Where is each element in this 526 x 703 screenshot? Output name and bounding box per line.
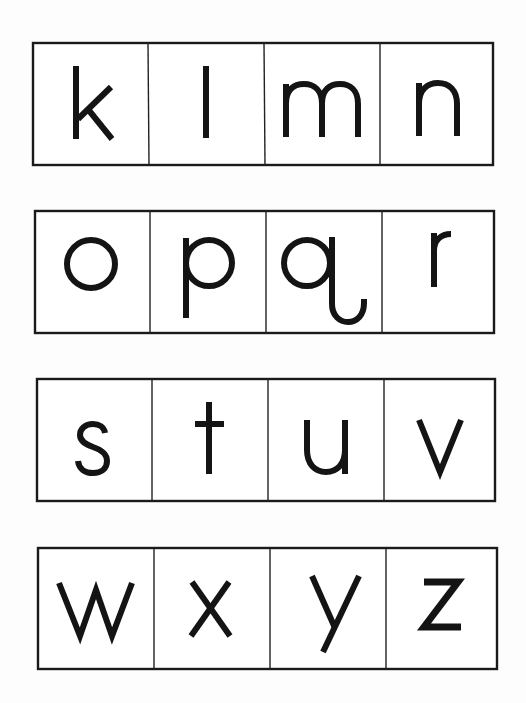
row-1-strip xyxy=(33,43,493,165)
row-3-strip xyxy=(37,379,495,501)
row-1-frame xyxy=(33,43,493,165)
row-4-frame xyxy=(38,548,497,669)
row-2-strip xyxy=(35,211,494,333)
row-2-frame xyxy=(35,211,494,333)
divider xyxy=(264,43,265,165)
row-4-strip xyxy=(38,548,497,669)
worksheet-drawing xyxy=(0,0,526,703)
letter-worksheet: k l m n o p q r s t u v w x y z xyxy=(0,0,526,703)
divider xyxy=(148,43,149,165)
